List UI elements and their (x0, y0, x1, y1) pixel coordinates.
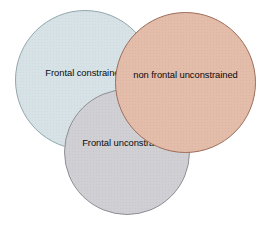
venn-label-frontal-constrained: Frontal constrained (45, 67, 124, 78)
venn-circle-non-frontal-unconstrained[interactable]: non frontal unconstrained (115, 12, 256, 153)
venn-label-non-frontal-unconstrained: non frontal unconstrained (133, 69, 238, 80)
venn-diagram-canvas: Frontal constrained Frontal unconstraine… (0, 0, 260, 228)
